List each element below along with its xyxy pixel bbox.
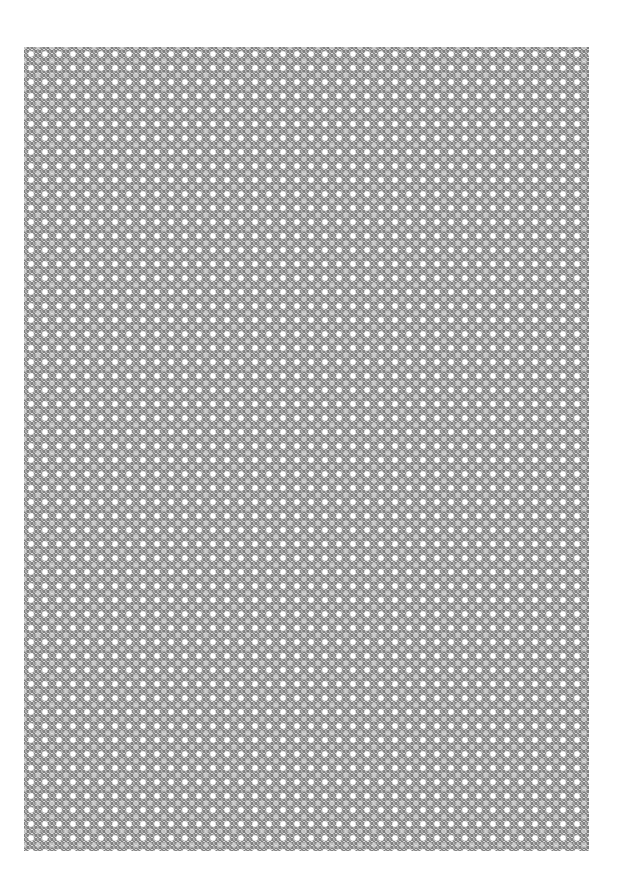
gray-lattice-pattern (24, 47, 589, 851)
